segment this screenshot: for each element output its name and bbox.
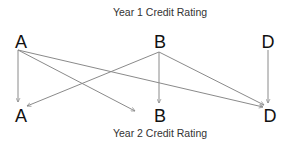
edge-b-to-d: [159, 52, 264, 105]
node-year1-d: D: [262, 32, 275, 52]
bottom-title: Year 2 Credit Rating: [113, 127, 207, 139]
diagram-svg: Year 1 Credit Rating A B D A B D Year 2 …: [0, 0, 292, 146]
node-year1-b: B: [154, 32, 166, 52]
edge-a-to-d: [18, 50, 263, 107]
node-year2-b: B: [154, 106, 166, 126]
edge-b-to-a: [27, 52, 159, 106]
node-year2-d: D: [264, 106, 277, 126]
top-title: Year 1 Credit Rating: [113, 6, 207, 18]
edge-a-to-b: [18, 50, 135, 111]
node-year1-a: A: [15, 32, 27, 52]
node-year2-a: A: [15, 106, 27, 126]
credit-rating-transition-diagram: Year 1 Credit Rating A B D A B D Year 2 …: [0, 0, 292, 146]
